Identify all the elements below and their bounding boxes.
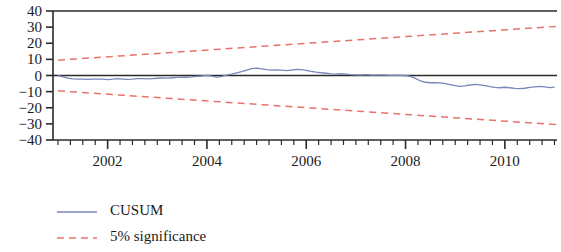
y-tick-label: −10 (19, 84, 42, 100)
y-tick-label: −30 (19, 116, 42, 132)
x-axis: 20022004200620082010 (58, 140, 555, 169)
y-tick-label: 0 (35, 68, 43, 84)
legend-label-significance: 5% significance (110, 228, 207, 244)
x-tick-label: 2010 (490, 153, 520, 169)
y-tick-label: 20 (27, 35, 42, 51)
chart-legend: CUSUM 5% significance (57, 202, 207, 244)
x-tick-label: 2002 (93, 153, 123, 169)
x-tick-label: 2008 (391, 153, 421, 169)
x-tick-label: 2004 (192, 153, 223, 169)
significance-lower-line (58, 91, 557, 125)
x-tick-label: 2006 (291, 153, 322, 169)
cusum-series-line (58, 68, 555, 89)
cusum-chart-figure: 403020100−10−20−30−40 200220042006200820… (0, 0, 561, 252)
y-tick-label: −20 (19, 100, 42, 116)
y-tick-label: 40 (27, 3, 42, 19)
y-tick-label: 30 (27, 19, 42, 35)
chart-canvas: 403020100−10−20−30−40 200220042006200820… (0, 0, 561, 252)
y-tick-label: 10 (27, 51, 42, 67)
y-tick-label: −40 (19, 132, 42, 148)
significance-upper-line (58, 26, 557, 60)
legend-label-cusum: CUSUM (110, 202, 163, 218)
y-axis: 403020100−10−20−30−40 (19, 3, 53, 148)
